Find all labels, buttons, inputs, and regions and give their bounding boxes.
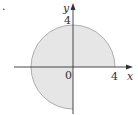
origin-label: 0 [65,69,72,82]
x-tick-label: 4 [111,70,118,83]
marker-dot: . [2,0,6,13]
y-axis-arrow-icon [71,3,76,10]
region-diagram: . y 4 0 4 x [0,0,138,115]
x-axis-arrow-icon [126,65,133,70]
x-axis-label: x [127,70,134,83]
y-tick-label: 4 [64,14,71,27]
